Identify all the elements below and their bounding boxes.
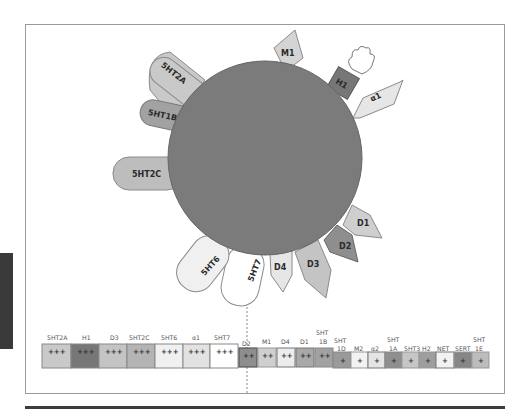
svg-text:+: +: [391, 357, 397, 365]
receptor-binding-diagram: 5HT2A 5HT1B 5HT2C M1 H1 α1 D1 D2 D3 D4: [0, 0, 515, 415]
svg-text:+: +: [408, 357, 414, 365]
svg-text:5HT: 5HT: [387, 336, 400, 343]
svg-text:+: +: [425, 357, 431, 365]
table-cell: 5HT2A+++: [42, 334, 71, 368]
svg-text:++: ++: [281, 352, 293, 360]
svg-text:5HT2A: 5HT2A: [47, 334, 68, 341]
receptor-label: D3: [307, 260, 319, 269]
svg-text:α2: α2: [371, 345, 379, 352]
svg-text:+: +: [460, 357, 466, 365]
svg-text:+++: +++: [77, 348, 95, 356]
label-line-1: 5HT: [316, 329, 329, 336]
svg-text:NET: NET: [437, 345, 450, 352]
table-cell: H1+++: [71, 334, 99, 368]
receptor-label: M1: [281, 49, 295, 58]
receptor-d4: D4: [270, 250, 292, 292]
table-cell: M2+: [351, 345, 368, 368]
receptor-label: 5HT2C: [132, 170, 161, 179]
table-cell: α2+: [368, 345, 385, 368]
table-cell: NET+: [436, 345, 454, 368]
svg-text:5HT3: 5HT3: [404, 345, 420, 352]
table-cell: 5HT1B++: [315, 329, 333, 367]
svg-text:SERT: SERT: [455, 345, 471, 352]
label-line-2: 1B: [319, 338, 327, 345]
table-cell: 5HT2C+++: [127, 334, 155, 368]
svg-text:α1: α1: [192, 334, 200, 341]
cell-circle: [168, 61, 362, 255]
table-cell: D2++: [239, 340, 257, 367]
table-cell: 5HT1A+: [385, 336, 402, 368]
table-cell: SERT+: [454, 345, 472, 368]
table-cell: 5HT6+++: [155, 334, 183, 368]
table-cell: D3+++: [99, 334, 127, 368]
svg-text:1D: 1D: [337, 345, 346, 352]
svg-text:1E: 1E: [475, 345, 483, 352]
affinity-table: 5HT2A+++ H1+++ D3+++ 5HT2C+++ 5HT6+++ α1…: [42, 329, 489, 368]
svg-text:5HT6: 5HT6: [161, 334, 177, 341]
svg-text:+: +: [357, 357, 363, 365]
svg-text:D1: D1: [300, 338, 309, 345]
receptor-alpha1: α1: [353, 80, 403, 118]
table-cell: 5HT1D+: [333, 337, 351, 368]
svg-text:M1: M1: [262, 338, 271, 345]
table-cell: 5HT7+++: [210, 334, 238, 368]
svg-text:+: +: [478, 357, 484, 365]
table-cell: α1+++: [183, 334, 210, 368]
svg-text:H1: H1: [82, 334, 91, 341]
svg-text:+: +: [374, 357, 380, 365]
svg-text:H2: H2: [422, 345, 431, 352]
svg-text:+++: +++: [216, 348, 234, 356]
svg-text:++: ++: [243, 352, 255, 360]
svg-text:+++: +++: [48, 348, 66, 356]
receptor-label: D4: [274, 263, 287, 272]
svg-text:++: ++: [262, 352, 274, 360]
svg-text:+++: +++: [105, 348, 123, 356]
table-cell: D4++: [277, 338, 295, 367]
svg-text:+: +: [340, 357, 346, 365]
svg-text:D4: D4: [281, 338, 290, 345]
svg-text:5HT7: 5HT7: [214, 334, 230, 341]
receptor-label: D2: [339, 242, 351, 251]
table-cell: 5HT1E+: [472, 336, 489, 368]
svg-text:D2: D2: [242, 340, 251, 347]
hand-icon: [349, 46, 375, 74]
svg-text:+++: +++: [133, 348, 151, 356]
svg-text:++: ++: [300, 352, 312, 360]
table-cell: D1++: [296, 338, 314, 367]
svg-text:+: +: [442, 357, 448, 365]
svg-text:+++: +++: [188, 348, 206, 356]
svg-text:5HT: 5HT: [473, 336, 486, 343]
svg-text:1A: 1A: [389, 345, 398, 352]
svg-text:M2: M2: [354, 345, 363, 352]
svg-text:D3: D3: [110, 334, 119, 341]
table-cell: M1++: [258, 338, 276, 367]
table-cell: H2+: [419, 345, 436, 368]
svg-text:++: ++: [319, 352, 331, 360]
receptor-label: D1: [357, 219, 370, 228]
svg-text:+++: +++: [161, 348, 179, 356]
svg-text:5HT2C: 5HT2C: [129, 334, 150, 341]
table-cell: 5HT3+: [402, 345, 420, 368]
svg-text:5HT: 5HT: [334, 337, 347, 344]
